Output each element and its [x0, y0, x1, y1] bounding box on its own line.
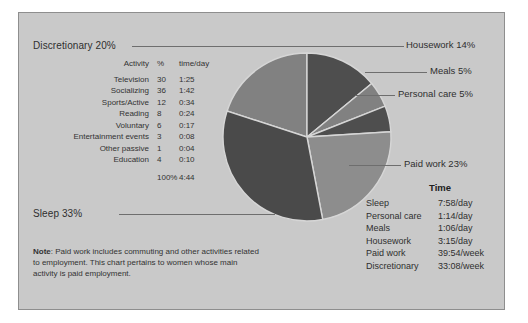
activity-table-total-row: 100% 4:44 — [49, 167, 219, 185]
table-row: Housework 3:15/day — [366, 236, 484, 249]
activity-percent: 4 — [157, 155, 179, 167]
activity-percent: 6 — [157, 121, 179, 133]
activity-total-time: 4:44 — [179, 167, 219, 185]
activity-name: Voluntary — [49, 121, 157, 133]
activity-total-label — [49, 167, 157, 185]
leader-line-paid-work — [349, 165, 401, 166]
leader-line-sleep — [119, 214, 275, 215]
activity-time: 0:10 — [179, 155, 219, 167]
pie-slices — [223, 53, 391, 221]
activity-total-percent: 100% — [157, 167, 179, 185]
chart-note: Note: Paid work includes commuting and o… — [33, 246, 261, 279]
activity-name: Socializing — [49, 86, 157, 98]
activity-header-time: time/day — [179, 59, 219, 71]
activity-time: 0:04 — [179, 144, 219, 156]
activity-percent: 3 — [157, 132, 179, 144]
activity-percent: 30 — [157, 75, 179, 87]
label-housework: Housework 14% — [406, 39, 475, 50]
activity-name: Entertainment events — [49, 132, 157, 144]
activity-time: 0:34 — [179, 98, 219, 110]
time-name: Meals — [366, 223, 438, 236]
activity-name: Sports/Active — [49, 98, 157, 110]
activity-time: 0:08 — [179, 132, 219, 144]
activity-percent: 8 — [157, 109, 179, 121]
activity-name: Reading — [49, 109, 157, 121]
time-value: 39:54/week — [438, 248, 484, 261]
table-row: Sleep 7:58/day — [366, 198, 484, 211]
table-row: Reading 8 0:24 — [49, 109, 219, 121]
label-paid-work: Paid work 23% — [404, 158, 467, 169]
chart-panel: Discretionary 20% Activity % time/day Te… — [18, 12, 505, 310]
note-label: Note — [33, 247, 51, 256]
time-value: 3:15/day — [438, 236, 484, 249]
table-row: Entertainment events 3 0:08 — [49, 132, 219, 144]
activity-header-activity: Activity — [49, 59, 157, 71]
table-row: Other passive 1 0:04 — [49, 144, 219, 156]
table-row: Education 4 0:10 — [49, 155, 219, 167]
activity-percent: 12 — [157, 98, 179, 110]
table-row: Discretionary 33:08/week — [366, 261, 484, 274]
label-sleep: Sleep 33% — [33, 208, 82, 219]
leader-line-personal-care — [355, 95, 395, 96]
table-row: Television 30 1:25 — [49, 75, 219, 87]
label-personal-care: Personal care 5% — [398, 88, 473, 99]
time-table: Sleep 7:58/day Personal care 1:14/day Me… — [366, 198, 484, 273]
activity-time: 0:17 — [179, 121, 219, 133]
chart-figure: Discretionary 20% Activity % time/day Te… — [0, 0, 528, 323]
table-row: Voluntary 6 0:17 — [49, 121, 219, 133]
table-row: Personal care 1:14/day — [366, 211, 484, 224]
activity-time: 0:24 — [179, 109, 219, 121]
activity-name: Other passive — [49, 144, 157, 156]
time-value: 33:08/week — [438, 261, 484, 274]
leader-line-housework — [344, 46, 404, 47]
time-name: Personal care — [366, 211, 438, 224]
time-value: 7:58/day — [438, 198, 484, 211]
time-value: 1:14/day — [438, 211, 484, 224]
activity-table: Activity % time/day Television 30 1:25 S… — [49, 59, 219, 184]
time-table-header: Time — [429, 182, 451, 193]
table-row: Paid work 39:54/week — [366, 248, 484, 261]
activity-percent: 36 — [157, 86, 179, 98]
table-row: Socializing 36 1:42 — [49, 86, 219, 98]
activity-time: 1:25 — [179, 75, 219, 87]
table-row: Meals 1:06/day — [366, 223, 484, 236]
leader-line-meals — [365, 72, 427, 73]
note-text: : Paid work includes commuting and other… — [33, 247, 259, 278]
time-name: Housework — [366, 236, 438, 249]
time-name: Paid work — [366, 248, 438, 261]
activity-header-percent: % — [157, 59, 179, 71]
activity-table-header-row: Activity % time/day — [49, 59, 219, 71]
activity-percent: 1 — [157, 144, 179, 156]
label-meals: Meals 5% — [430, 65, 472, 76]
time-value: 1:06/day — [438, 223, 484, 236]
time-name: Sleep — [366, 198, 438, 211]
activity-name: Education — [49, 155, 157, 167]
label-discretionary: Discretionary 20% — [33, 40, 116, 51]
table-row: Sports/Active 12 0:34 — [49, 98, 219, 110]
activity-name: Television — [49, 75, 157, 87]
time-name: Discretionary — [366, 261, 438, 274]
activity-time: 1:42 — [179, 86, 219, 98]
